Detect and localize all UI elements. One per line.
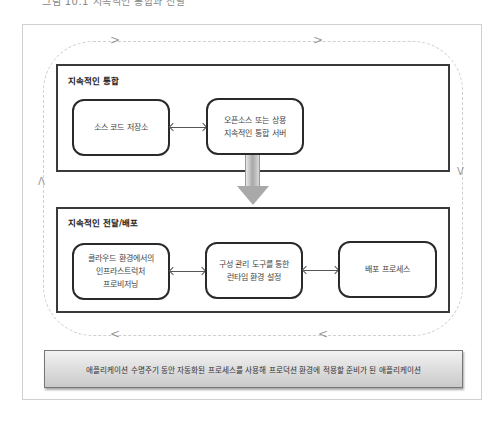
bidirectional-arrow-icon — [170, 271, 205, 272]
node-infrastructure-provisioning: 클라우드 환경에서의 인프라스트럭처 프로비저닝 — [72, 243, 170, 300]
loop-arrow-right-icon: > — [313, 34, 323, 46]
section-title: 지속적인 통합 — [68, 74, 119, 86]
section-title: 지속적인 전달/배포 — [68, 216, 138, 228]
node-deployment-process: 배포 프로세스 — [338, 241, 437, 298]
node-label: 오픈소스 또는 상용 지속적인 통합 서버 — [224, 114, 285, 140]
figure-caption-partial: 그림 10.1 지속적인 통합과 전달 — [42, 0, 185, 8]
loop-arrow-right-icon: > — [110, 34, 120, 46]
node-label: 구성 관리 도구를 통한 런타임 환경 설정 — [219, 258, 290, 284]
node-label: 클라우드 환경에서의 인프라스트럭처 프로비저닝 — [88, 252, 154, 291]
node-source-code-repository: 소스 코드 저장소 — [72, 99, 170, 156]
node-label: 소스 코드 저장소 — [94, 121, 148, 134]
down-arrow-shaft — [245, 155, 260, 187]
down-arrow-icon — [237, 186, 269, 205]
bidirectional-arrow-icon — [303, 270, 338, 271]
node-runtime-configuration: 구성 관리 도구를 통한 런타임 환경 설정 — [205, 242, 303, 299]
result-banner: 애플리케이션 수명주기 동안 자동화된 프로세스를 사용해 프로덕션 환경에 적… — [44, 350, 463, 388]
loop-arrow-up-icon: Λ — [38, 176, 45, 188]
loop-arrow-down-icon: V — [457, 166, 464, 178]
loop-arrow-left-icon: < — [110, 328, 120, 340]
node-label: 배포 프로세스 — [365, 263, 410, 276]
bidirectional-arrow-icon — [170, 127, 206, 128]
node-ci-server: 오픈소스 또는 상용 지속적인 통합 서버 — [206, 98, 304, 155]
banner-text: 애플리케이션 수명주기 동안 자동화된 프로세스를 사용해 프로덕션 환경에 적… — [86, 364, 421, 375]
loop-arrow-left-icon: < — [318, 328, 328, 340]
